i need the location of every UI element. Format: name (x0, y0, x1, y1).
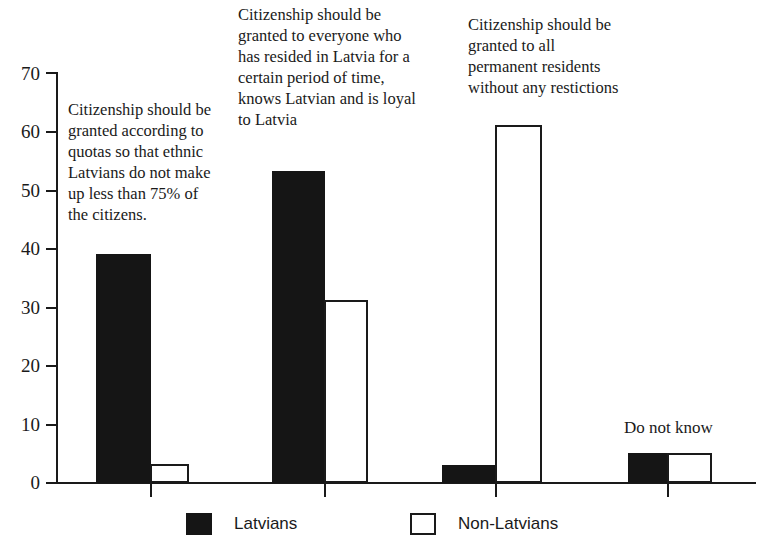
bar-latvians-category-3 (442, 465, 496, 483)
bar-non-latvians-category-3 (495, 125, 542, 483)
filled-square-icon (186, 513, 212, 535)
category-label-3: Citizenship should be granted to all per… (468, 14, 668, 98)
bar-latvians-category-2 (272, 171, 325, 483)
y-tick-40 (46, 248, 57, 250)
hollow-square-icon (410, 513, 436, 535)
y-tick-label-50: 50 (0, 181, 40, 200)
category-label-4: Do not know (624, 418, 713, 438)
legend-entry-non-latvians: Non-Latvians (410, 511, 558, 537)
chart-legend: Latvians Non-Latvians (186, 511, 606, 541)
bar-non-latvians-category-2 (324, 300, 368, 483)
bar-latvians-category-1 (96, 254, 151, 483)
bar-non-latvians-category-4 (667, 453, 712, 483)
x-tick-category-1 (150, 484, 152, 497)
y-tick-30 (46, 307, 57, 309)
y-tick-60 (46, 131, 57, 133)
y-axis-line (56, 72, 58, 484)
legend-entry-latvians: Latvians (186, 511, 297, 537)
y-tick-50 (46, 190, 57, 192)
y-tick-20 (46, 365, 57, 367)
x-tick-category-4 (667, 484, 669, 497)
y-tick-label-70: 70 (0, 64, 40, 83)
y-tick-label-60: 60 (0, 122, 40, 141)
category-label-1: Citizenship should be granted according … (68, 99, 243, 225)
y-tick-label-30: 30 (0, 298, 40, 317)
y-tick-label-10: 10 (0, 415, 40, 434)
x-tick-category-2 (324, 484, 326, 497)
legend-label-non-latvians: Non-Latvians (458, 514, 558, 534)
y-tick-10 (46, 424, 57, 426)
category-label-2: Citizenship should be granted to everyon… (238, 4, 448, 130)
x-tick-category-3 (495, 484, 497, 497)
legend-label-latvians: Latvians (234, 514, 297, 534)
bar-chart: 70 60 50 40 30 20 10 0 Citizenship shoul… (0, 0, 757, 545)
y-tick-70 (46, 72, 57, 74)
y-tick-label-20: 20 (0, 356, 40, 375)
y-tick-label-0: 0 (0, 473, 40, 492)
bar-latvians-category-4 (628, 453, 669, 483)
y-tick-label-40: 40 (0, 239, 40, 258)
bar-non-latvians-category-1 (150, 464, 189, 483)
